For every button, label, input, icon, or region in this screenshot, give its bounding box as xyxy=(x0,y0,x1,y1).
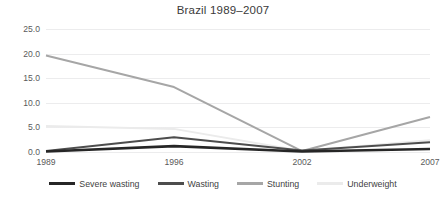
legend-item-underweight[interactable]: Underweight xyxy=(317,180,396,189)
series-line-underweight xyxy=(46,126,430,151)
legend-item-label: Underweight xyxy=(347,180,396,189)
y-axis-tick-label: 25.0 xyxy=(0,24,40,34)
legend-item-wasting[interactable]: Wasting xyxy=(158,180,219,189)
legend-swatch-icon xyxy=(158,182,184,185)
y-axis-tick-label: 5.0 xyxy=(0,122,40,132)
legend-item-label: Stunting xyxy=(267,180,299,189)
y-axis-tick-label: 10.0 xyxy=(0,98,40,108)
series-line-stunting xyxy=(46,56,430,151)
y-axis-tick-label: 15.0 xyxy=(0,73,40,83)
chart-title: Brazil 1989–2007 xyxy=(0,4,446,16)
legend-item-stunting[interactable]: Stunting xyxy=(237,180,299,189)
legend-item-label: Severe wasting xyxy=(79,180,139,189)
chart-legend: Severe wastingWastingStuntingUnderweight xyxy=(0,176,446,192)
line-chart: Brazil 1989–2007 0.05.010.015.020.025.0 … xyxy=(0,0,446,201)
x-axis-tick-label: 2007 xyxy=(420,157,439,167)
x-axis: 1989199620022007 xyxy=(46,157,430,171)
legend-item-label: Wasting xyxy=(188,180,219,189)
series-layer xyxy=(46,29,430,152)
y-axis-tick-label: 20.0 xyxy=(0,49,40,59)
y-axis-tick-label: 0.0 xyxy=(0,147,40,157)
legend-item-severe-wasting[interactable]: Severe wasting xyxy=(49,180,139,189)
legend-swatch-icon xyxy=(49,182,75,185)
x-axis-tick-label: 2002 xyxy=(292,157,311,167)
plot-area xyxy=(46,29,430,152)
y-axis: 0.05.010.015.020.025.0 xyxy=(0,29,40,152)
x-axis-tick-label: 1996 xyxy=(164,157,183,167)
legend-swatch-icon xyxy=(317,182,343,185)
x-axis-tick-label: 1989 xyxy=(36,157,55,167)
legend-swatch-icon xyxy=(237,182,263,185)
gridline xyxy=(46,152,430,153)
